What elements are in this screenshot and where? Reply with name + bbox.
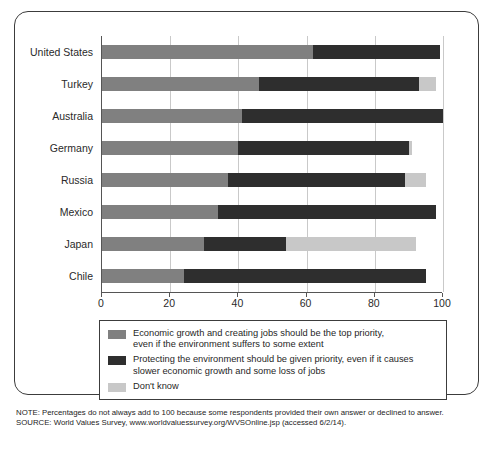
x-axis-tick-label: 40 <box>232 297 244 309</box>
plot-area: United StatesTurkeyAustraliaGermanyRussi… <box>15 12 480 312</box>
x-axis-tick-label: 20 <box>163 297 175 309</box>
note-text: NOTE: Percentages do not always add to 1… <box>16 408 478 418</box>
chart-legend: Economic growth and creating jobs should… <box>99 320 447 400</box>
bar-segment[interactable] <box>102 205 218 219</box>
bar-row <box>102 36 443 68</box>
bar-segment[interactable] <box>259 77 419 91</box>
bar-segment[interactable] <box>184 269 426 283</box>
bar-segment[interactable] <box>102 141 238 155</box>
bar-segment[interactable] <box>405 173 425 187</box>
y-axis-label: Mexico <box>15 196 101 228</box>
bar-segment[interactable] <box>102 45 313 59</box>
bar-segment[interactable] <box>102 77 259 91</box>
stacked-bar[interactable] <box>102 269 426 283</box>
x-axis-tick-label: 100 <box>433 297 451 309</box>
legend-swatch <box>108 383 126 392</box>
chart-frame: United StatesTurkeyAustraliaGermanyRussi… <box>14 11 479 395</box>
bar-row <box>102 132 443 164</box>
y-axis-label: Russia <box>15 164 101 196</box>
legend-swatch <box>108 356 126 365</box>
bar-segment[interactable] <box>228 173 405 187</box>
source-text: SOURCE: World Values Survey, www.worldva… <box>16 418 478 428</box>
bar-row <box>102 228 443 260</box>
gridline <box>443 36 444 292</box>
bar-segment[interactable] <box>313 45 439 59</box>
legend-swatch <box>108 330 126 339</box>
chart-page: United StatesTurkeyAustraliaGermanyRussi… <box>0 0 493 458</box>
bar-segment[interactable] <box>102 269 184 283</box>
stacked-bar[interactable] <box>102 237 416 251</box>
bar-row <box>102 260 443 292</box>
y-axis-label: Australia <box>15 100 101 132</box>
y-axis-label: United States <box>15 36 101 68</box>
legend-label-line: Don't know <box>133 381 179 392</box>
legend-item[interactable]: Economic growth and creating jobs should… <box>108 328 438 350</box>
legend-item[interactable]: Protecting the environment should be giv… <box>108 354 438 376</box>
legend-label: Don't know <box>133 381 179 392</box>
legend-label: Economic growth and creating jobs should… <box>133 328 384 350</box>
legend-label-line: Economic growth and creating jobs should… <box>133 328 384 339</box>
bar-segment[interactable] <box>102 173 228 187</box>
x-axis-tick-label: 80 <box>368 297 380 309</box>
chart-notes: NOTE: Percentages do not always add to 1… <box>16 408 478 428</box>
bar-row <box>102 100 443 132</box>
bar-segment[interactable] <box>409 141 412 155</box>
y-axis-label: Turkey <box>15 68 101 100</box>
legend-label-line: slower economic growth and some loss of … <box>133 366 413 377</box>
y-axis-label: Germany <box>15 132 101 164</box>
legend-label-line: even if the environment suffers to some … <box>133 339 384 350</box>
y-axis-label: Chile <box>15 260 101 292</box>
legend-label: Protecting the environment should be giv… <box>133 354 413 376</box>
y-axis-labels: United StatesTurkeyAustraliaGermanyRussi… <box>15 36 101 292</box>
bar-segment[interactable] <box>102 109 242 123</box>
legend-item[interactable]: Don't know <box>108 381 438 392</box>
stacked-bar[interactable] <box>102 173 426 187</box>
stacked-bar[interactable] <box>102 45 440 59</box>
bar-segment[interactable] <box>218 205 436 219</box>
bar-segment[interactable] <box>102 237 204 251</box>
bar-segment[interactable] <box>204 237 286 251</box>
stacked-bar[interactable] <box>102 205 436 219</box>
bar-row <box>102 164 443 196</box>
bar-segment[interactable] <box>242 109 443 123</box>
bar-row <box>102 196 443 228</box>
stacked-bar[interactable] <box>102 77 436 91</box>
bar-segment[interactable] <box>419 77 436 91</box>
stacked-bar[interactable] <box>102 109 443 123</box>
bar-segment[interactable] <box>286 237 416 251</box>
bar-segment[interactable] <box>238 141 409 155</box>
legend-label-line: Protecting the environment should be giv… <box>133 354 413 365</box>
y-axis-label: Japan <box>15 228 101 260</box>
x-axis-tick-label: 0 <box>98 297 104 309</box>
bar-rows <box>102 36 443 292</box>
bar-row <box>102 68 443 100</box>
x-axis-tick-label: 60 <box>300 297 312 309</box>
x-axis-tick-labels: 020406080100 <box>101 297 442 313</box>
stacked-bar[interactable] <box>102 141 412 155</box>
plot-canvas <box>101 36 443 292</box>
